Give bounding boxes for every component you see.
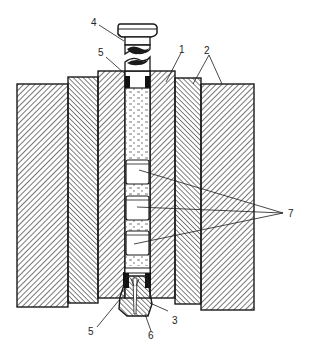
die-cross-section-diagram: 4 5 1 2 7 3 5 6: [0, 0, 316, 356]
label-5-upper: 5: [98, 47, 104, 58]
outer-die-ring-left: [17, 84, 68, 307]
label-5-lower: 5: [88, 326, 94, 337]
label-2: 2: [204, 45, 210, 56]
label-1: 1: [179, 44, 185, 55]
sample-capsule: [126, 196, 149, 220]
label-4: 4: [91, 17, 97, 28]
label-3: 3: [172, 315, 178, 326]
top-punch: [118, 24, 157, 71]
outer-die-ring-right: [201, 84, 254, 310]
middle-die-ring-left: [68, 77, 98, 303]
middle-die-ring-right: [175, 78, 201, 304]
label-6: 6: [148, 330, 154, 341]
label-7: 7: [288, 208, 294, 219]
